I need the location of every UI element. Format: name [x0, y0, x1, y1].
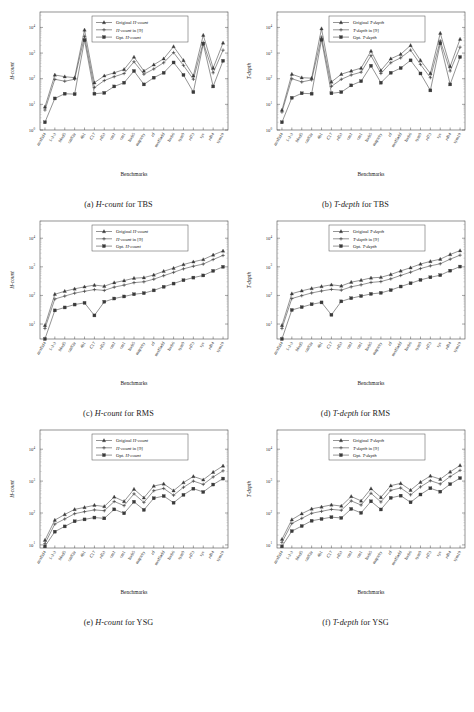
x-tick-label: mod5add	[390, 340, 403, 357]
x-tick-label: C17	[88, 549, 96, 558]
y-tick-label: 103	[29, 478, 36, 484]
legend-label: Opt. H-count	[116, 244, 141, 249]
y-tick-label: 104	[29, 235, 36, 241]
legend: Original T-depthT-depth in [9]Opt. T-dep…	[329, 16, 425, 42]
x-tick-label: majority	[134, 340, 146, 356]
x-tick-label: rd84	[444, 549, 453, 559]
y-tick-label: 102	[29, 510, 36, 516]
x-tick-label: majority	[371, 549, 383, 565]
x-axis-label: Benchmarks	[121, 171, 148, 177]
legend-label: Original T-depth	[353, 20, 385, 25]
x-tick-label: sys	[435, 132, 442, 140]
x-tick-label: majority	[371, 131, 383, 147]
x-tick-label: sym10	[452, 341, 462, 353]
y-tick-label: 103	[266, 478, 273, 484]
x-tick-label: C17	[88, 131, 96, 140]
x-tick-label: hwb5	[364, 550, 373, 561]
chart-a: 100101102103104mod5d41-2-3Mod5cm82a4b1C1…	[0, 0, 237, 200]
x-tick-label: hwb5	[364, 341, 373, 352]
x-tick-label: sym10	[215, 341, 225, 353]
y-axis-label: T-depth	[246, 272, 252, 289]
plot-area-c: 101102103104mod5d41-2-3Mod5cm82a4b1C17rd…	[0, 209, 237, 409]
x-tick-label: cm82a	[66, 132, 76, 144]
x-tick-label: cm82a	[303, 341, 313, 353]
y-tick-label: 104	[29, 446, 36, 452]
y-axis-label: T-depth	[246, 63, 252, 80]
x-tick-label: 1-2-3	[48, 341, 57, 352]
subfigure-d: 101102103104mod5d41-2-3Mod5cm82a4b1C17rd…	[237, 209, 474, 418]
x-tick-label: sym9	[176, 341, 185, 352]
figure-benchmark-comparison: 100101102103104mod5d41-2-3Mod5cm82a4b1C1…	[0, 0, 474, 712]
plot-area-e: 101102103104mod5d41-2-3Mod5cm82a4b1C17rd…	[0, 418, 237, 618]
y-tick-label: 102	[266, 510, 273, 516]
chart-d: 101102103104mod5d41-2-3Mod5cm82a4b1C17rd…	[237, 209, 474, 409]
x-tick-label: cm1	[355, 550, 363, 559]
legend-label: Opt. T-depth	[353, 244, 377, 249]
x-axis-label: Benchmarks	[358, 380, 385, 386]
x-tick-label: rd53	[98, 341, 106, 350]
x-axis-label: Benchmarks	[121, 589, 148, 595]
series-plus	[43, 254, 225, 330]
x-tick-label: 4b1	[316, 550, 324, 558]
y-tick-label: 101	[266, 321, 273, 327]
legend: Original H-countH-count in [9]Opt. H-cou…	[92, 225, 188, 251]
y-axis-label: H-count	[9, 62, 15, 81]
legend-label: T-depth in [9]	[353, 237, 379, 242]
x-tick-label: rd	[387, 549, 394, 555]
x-tick-label: rd53	[335, 132, 343, 141]
x-tick-label: cm2	[345, 341, 353, 350]
x-tick-label: rd	[387, 340, 394, 346]
x-tick-label: rd84	[207, 340, 216, 350]
y-tick-label: 101	[29, 541, 36, 547]
x-tick-label: sym10	[452, 550, 462, 562]
caption-f: (f) T-depth for YSG	[237, 618, 474, 627]
x-tick-label: rd73	[187, 550, 195, 559]
x-tick-label: hwb5	[364, 132, 373, 143]
y-tick-label: 101	[29, 101, 36, 107]
plot-area-b: 100101102103104mod5d41-2-3Mod5cm82a4b1C1…	[237, 0, 474, 200]
x-tick-label: mod5add	[153, 549, 166, 566]
x-tick-label: sym9	[413, 341, 422, 352]
x-tick-label: sym9	[413, 550, 422, 561]
y-tick-label: 102	[29, 75, 36, 81]
x-tick-label: sys	[435, 550, 442, 558]
x-tick-label: cm1	[118, 132, 126, 141]
x-tick-label: cm82a	[303, 550, 313, 562]
series-triangle	[43, 249, 225, 327]
legend-label: H-count in [9]	[115, 28, 143, 33]
x-tick-label: sys	[198, 341, 205, 349]
x-tick-label: 4b1	[79, 341, 87, 349]
y-tick-label: 102	[266, 75, 273, 81]
x-tick-label: rd73	[187, 132, 195, 141]
y-tick-label: 100	[29, 127, 36, 133]
x-tick-label: rd84	[207, 549, 216, 559]
caption-e: (e) H-count for YSG	[0, 618, 237, 627]
x-tick-label: 4b1	[79, 550, 87, 558]
x-tick-label: 1-2-3	[285, 341, 294, 352]
x-axis-label: Benchmarks	[358, 589, 385, 595]
x-tick-label: rd84	[444, 131, 453, 141]
series-plus	[43, 35, 225, 112]
x-axis-label: Benchmarks	[358, 171, 385, 177]
x-tick-label: sys	[198, 132, 205, 140]
figure-row-2: 101102103104mod5d41-2-3Mod5cm82a4b1C17rd…	[0, 209, 474, 418]
x-tick-label: 1-2-3	[285, 550, 294, 561]
x-tick-label: rd	[387, 131, 394, 137]
chart-c: 101102103104mod5d41-2-3Mod5cm82a4b1C17rd…	[0, 209, 237, 409]
x-tick-label: C17	[325, 340, 333, 349]
x-tick-label: hwb6	[166, 549, 176, 560]
x-tick-label: hwb6	[403, 340, 413, 351]
x-tick-label: sym10	[215, 132, 225, 144]
x-tick-label: rd73	[187, 341, 195, 350]
legend-label: H-count in [9]	[115, 446, 143, 451]
x-tick-label: sym10	[452, 132, 462, 144]
x-tick-label: rd84	[207, 131, 216, 141]
legend-label: T-depth in [9]	[353, 28, 379, 33]
series-plus	[280, 253, 462, 330]
legend-label: Opt. H-count	[116, 35, 141, 40]
y-axis-label: H-count	[9, 271, 15, 290]
x-tick-label: 1-2-3	[285, 132, 294, 143]
subfigure-c: 101102103104mod5d41-2-3Mod5cm82a4b1C17rd…	[0, 209, 237, 418]
x-tick-label: rd	[150, 131, 157, 137]
legend-label: Original T-depth	[353, 229, 385, 234]
